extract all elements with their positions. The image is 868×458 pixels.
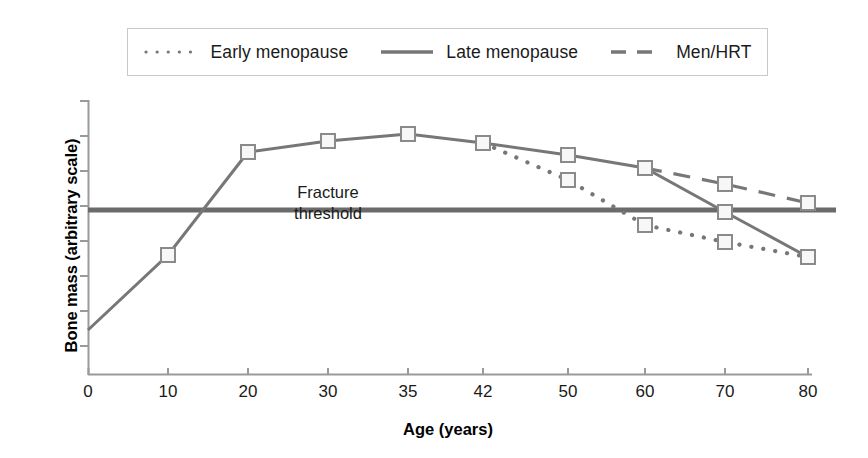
data-point-marker [718, 177, 732, 191]
x-tick-label-10: 10 [138, 382, 198, 402]
y-axis-title: Bone mass (arbitrary scale) [62, 96, 81, 396]
x-tick-label-80: 80 [778, 382, 838, 402]
data-point-marker [718, 205, 732, 219]
data-point-marker [161, 248, 175, 262]
data-point-marker [401, 127, 415, 141]
fracture-threshold-line1: Fracture [253, 182, 403, 203]
data-point-marker [561, 173, 575, 187]
data-point-marker [561, 148, 575, 162]
x-tick-label-60: 60 [615, 382, 675, 402]
data-point-marker [638, 161, 652, 175]
data-point-marker [476, 136, 490, 150]
x-tick-label-30: 30 [298, 382, 358, 402]
y-axis-ticks [80, 101, 88, 346]
fracture-threshold-line2: threshold [253, 203, 403, 224]
data-point-marker [321, 134, 335, 148]
data-point-marker [718, 235, 732, 249]
x-tick-label-42: 42 [453, 382, 513, 402]
data-point-marker [801, 196, 815, 210]
x-tick-label-35: 35 [378, 382, 438, 402]
fracture-threshold-annotation: Fracture threshold [253, 182, 403, 224]
x-axis-title: Age (years) [88, 420, 808, 439]
data-point-marker [638, 218, 652, 232]
x-tick-label-50: 50 [538, 382, 598, 402]
series-line-late-menopause [88, 134, 808, 330]
data-point-marker [801, 250, 815, 264]
bone-mass-vs-age-chart: Early menopause Late menopause Men/HRT [0, 0, 868, 458]
data-point-marker [241, 145, 255, 159]
x-tick-label-20: 20 [218, 382, 278, 402]
x-tick-label-70: 70 [695, 382, 755, 402]
